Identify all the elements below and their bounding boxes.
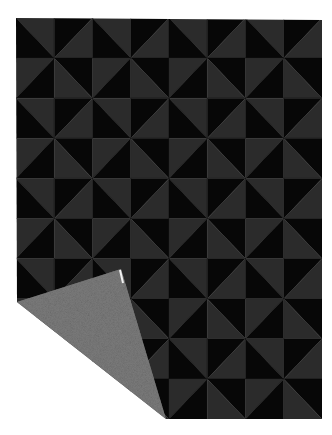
blanket-photo xyxy=(0,0,332,435)
